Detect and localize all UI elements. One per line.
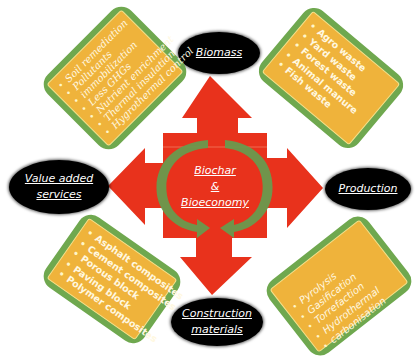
arrow-up-icon [182,76,252,133]
node-construction-line1: Construction [182,306,252,322]
center-title-bioeconomy: Bioeconomy [175,195,255,211]
center-title-biochar: Biochar [175,163,255,179]
node-value-added-line1: Value added [25,171,93,187]
node-construction-materials: Construction materials [171,298,263,346]
node-biomass-label: Biomass [196,45,242,61]
node-production-label: Production [339,181,398,197]
arrow-down-icon [180,238,252,295]
center-title-ampersand: & [175,179,255,195]
arrow-left-icon [108,148,163,225]
node-production: Production [325,168,411,210]
node-construction-line2: materials [191,322,243,338]
center-title: Biochar & Bioeconomy [175,163,255,211]
node-value-added-line2: services [36,187,81,203]
node-value-added-services: Value added services [9,160,109,214]
biochar-bioeconomy-diagram: Biochar & Bioeconomy Biomass Production … [0,0,415,362]
arrow-right-icon [267,148,323,228]
